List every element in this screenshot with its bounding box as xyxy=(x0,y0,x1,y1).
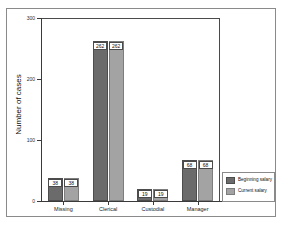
legend-swatch-beginning-salary xyxy=(226,177,235,184)
y-axis-tick: 100 xyxy=(3,137,35,143)
bar-clerical-beginning-salary[interactable] xyxy=(93,41,108,201)
y-axis-tick-label: 300 xyxy=(7,15,35,21)
y-axis-tick-mark xyxy=(37,79,42,80)
legend-item[interactable]: Current salary xyxy=(226,187,272,195)
y-axis-title: Number of cases xyxy=(14,35,23,175)
chart-legend: Beginning salary Current salary xyxy=(222,172,275,202)
y-axis-tick-mark xyxy=(37,201,42,202)
legend-item[interactable]: Beginning salary xyxy=(226,176,272,184)
legend-swatch-current-salary xyxy=(226,188,235,195)
y-axis-tick-mark xyxy=(37,18,42,19)
bar-value-label: 38 xyxy=(64,179,78,187)
legend-label-current-salary: Current salary xyxy=(238,188,267,194)
x-axis-tick-mark xyxy=(198,201,199,205)
bar-value-label: 19 xyxy=(138,190,152,198)
y-axis-tick: 300 xyxy=(3,15,35,21)
y-axis-tick: 0 xyxy=(3,198,35,204)
x-axis-line xyxy=(38,201,223,202)
y-axis-tick-label: 0 xyxy=(7,198,35,204)
y-axis-line xyxy=(41,18,42,202)
y-axis-tick-label: 200 xyxy=(7,76,35,82)
bar-value-label: 68 xyxy=(199,161,213,169)
y-axis-tick-label: 100 xyxy=(7,137,35,143)
x-axis-tick-mark xyxy=(153,201,154,205)
chart-figure: Number of cases 0100200300 3838262262191… xyxy=(0,0,283,225)
bar-value-label: 262 xyxy=(109,42,123,50)
bar-clerical-current-salary[interactable] xyxy=(109,41,124,201)
x-axis-tick-label-manager: Manager xyxy=(168,206,228,213)
x-axis-tick-mark xyxy=(108,201,109,205)
y-axis-tick-mark xyxy=(37,140,42,141)
bar-value-label: 19 xyxy=(154,190,168,198)
bar-value-label: 38 xyxy=(48,179,62,187)
y-axis-tick: 200 xyxy=(3,76,35,82)
x-axis-tick-mark xyxy=(63,201,64,205)
legend-label-beginning-salary: Beginning salary xyxy=(238,177,272,183)
bar-value-label: 262 xyxy=(93,42,107,50)
bar-value-label: 68 xyxy=(183,161,197,169)
